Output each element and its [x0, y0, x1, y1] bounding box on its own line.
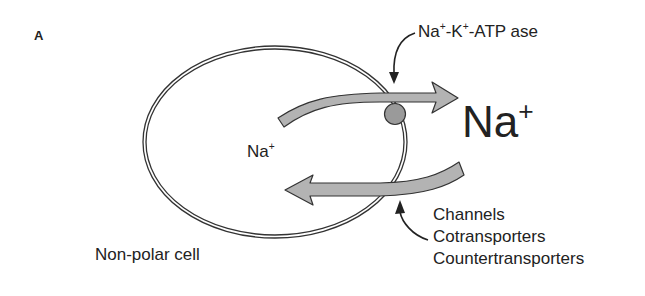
pump-label-part: -ATP ase — [469, 22, 538, 41]
pump-icon — [385, 104, 406, 125]
pump-label-part: Na — [418, 22, 440, 41]
pump-label-part: -K — [446, 22, 463, 41]
influx-pathway-item: Cotransporters — [433, 226, 584, 248]
ion-charge: + — [269, 141, 275, 152]
influx-pathway-item: Channels — [433, 204, 584, 226]
efflux-arrow — [278, 82, 458, 127]
panel-label: A — [34, 29, 43, 42]
influx-pathway-item: Countertransporters — [433, 248, 584, 270]
pump-label: Na+-K+-ATP ase — [418, 23, 538, 40]
ion-charge: + — [518, 96, 533, 126]
influx-arrow — [285, 162, 464, 205]
pump-pointer-arrow — [389, 33, 415, 84]
ion-symbol: Na — [462, 97, 518, 146]
ion-symbol: Na — [247, 142, 269, 161]
intracellular-sodium-label: Na+ — [247, 143, 275, 160]
cell-type-label: Non-polar cell — [95, 246, 200, 263]
extracellular-sodium-label: Na+ — [462, 100, 534, 144]
influx-pathways-list: Channels Cotransporters Countertransport… — [433, 204, 584, 270]
channels-pointer-arrow — [395, 200, 428, 240]
cell-membrane — [143, 46, 407, 238]
